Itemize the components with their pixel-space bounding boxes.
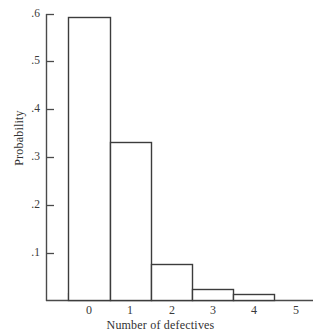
y-axis-title: Probability [12,83,26,193]
y-tick-label-0.1: .1 [22,247,40,259]
bar-0 [69,18,111,301]
x-axis-title: Number of defectives [0,318,321,332]
bar-4 [234,295,275,301]
probability-histogram-chart: .6 .5 .4 .3 .2 .1 0 1 2 3 4 5 Probabilit… [0,0,321,334]
chart-plot-area [0,0,321,334]
x-tick-label-5: 5 [284,303,308,318]
y-tick-label-0.2: .2 [22,199,40,211]
x-tick-label-wrap-1: 1 [118,303,142,318]
y-tick-label-wrap-0.1: .1 [22,247,40,259]
x-tick-label-1: 1 [118,303,142,318]
x-tick-label-wrap-5: 5 [284,303,308,318]
bar-series-probability [69,18,275,301]
bar-3 [193,290,234,301]
x-tick-label-4: 4 [242,303,266,318]
bar-2 [152,265,193,301]
y-tick-label-0.5: .5 [22,55,40,67]
x-tick-label-0: 0 [77,303,101,318]
x-tick-label-3: 3 [201,303,225,318]
x-tick-label-wrap-0: 0 [77,303,101,318]
y-tick-label-0.6: .6 [22,8,40,20]
y-tick-label-wrap-0.5: .5 [22,55,40,67]
y-tick-label-wrap-0.2: .2 [22,199,40,211]
bar-1 [111,143,152,301]
x-tick-label-wrap-3: 3 [201,303,225,318]
y-tick-label-wrap-0.6: .6 [22,8,40,20]
x-tick-label-2: 2 [160,303,184,318]
x-tick-label-wrap-2: 2 [160,303,184,318]
x-tick-label-wrap-4: 4 [242,303,266,318]
